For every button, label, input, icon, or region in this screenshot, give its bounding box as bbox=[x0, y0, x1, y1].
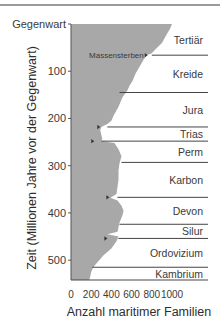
x-tick-label: 200 bbox=[83, 289, 100, 300]
y-tick-label: 500 bbox=[48, 254, 66, 266]
period-label-perm: Perm bbox=[178, 146, 203, 158]
period-label-karbon: Karbon bbox=[169, 174, 203, 186]
x-tick-label: 600 bbox=[123, 289, 140, 300]
families-area bbox=[71, 24, 172, 280]
mass-extinction-annotation: Massensterben bbox=[89, 51, 144, 60]
x-tick-label: 800 bbox=[143, 289, 160, 300]
period-label-ordovizium: Ordovizium bbox=[150, 247, 203, 259]
y-tick-label: 200 bbox=[48, 112, 66, 124]
x-tick-label: 1000 bbox=[161, 289, 184, 300]
period-label-devon: Devon bbox=[173, 205, 204, 217]
y-tick-label: 400 bbox=[48, 207, 66, 219]
y-tick-label: 300 bbox=[48, 160, 66, 172]
x-tick-label: 0 bbox=[68, 289, 74, 300]
x-axis-title: Anzahl maritimer Familien bbox=[67, 305, 212, 319]
period-label-kreide: Kreide bbox=[173, 68, 204, 80]
chart: Gegenwart100200300400500 020040060080010… bbox=[0, 0, 220, 329]
period-label-silur: Silur bbox=[182, 225, 204, 237]
y-tick-label: 100 bbox=[48, 65, 66, 77]
period-label-kambrium: Kambrium bbox=[155, 268, 203, 280]
period-label-tertiär: Tertiär bbox=[174, 34, 204, 46]
y-tick-label: Gegenwart bbox=[12, 18, 66, 30]
period-label-trias: Trias bbox=[180, 128, 203, 140]
x-tick-label: 400 bbox=[103, 289, 120, 300]
y-axis-title: Zeit (Millionen Jahre vor der Gegenwart) bbox=[25, 46, 39, 270]
period-label-jura: Jura bbox=[183, 104, 204, 116]
